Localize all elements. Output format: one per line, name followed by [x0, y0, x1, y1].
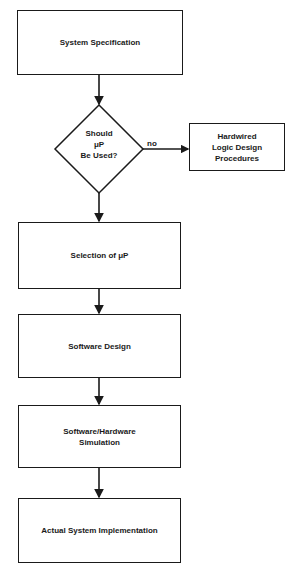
- selection-label: Selection of μP: [71, 250, 129, 261]
- no-label: no: [147, 139, 157, 148]
- system-specification-box: System Specification: [17, 10, 183, 75]
- decision-label: Should μP Be Used?: [69, 128, 129, 161]
- simulation-box: Software/Hardware Simulation: [18, 405, 181, 468]
- system-specification-label: System Specification: [60, 37, 140, 48]
- software-design-box: Software Design: [18, 314, 181, 378]
- selection-box: Selection of μP: [18, 222, 181, 289]
- hardwired-logic-label: Hardwired Logic Design Procedures: [212, 131, 262, 164]
- hardwired-logic-box: Hardwired Logic Design Procedures: [189, 123, 285, 171]
- implementation-label: Actual System Implementation: [41, 525, 157, 536]
- simulation-label: Software/Hardware Simulation: [63, 426, 135, 448]
- implementation-box: Actual System Implementation: [18, 498, 181, 563]
- software-design-label: Software Design: [68, 341, 131, 352]
